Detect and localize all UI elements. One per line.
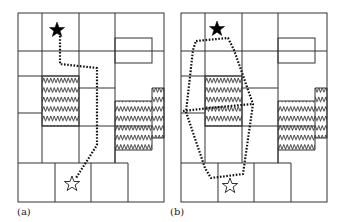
panel-a: (a) (17, 13, 164, 217)
figure-canvas: (a) (b) (0, 0, 342, 222)
start-star-icon (209, 21, 224, 36)
goal-star-icon (222, 178, 237, 193)
grid-a (18, 13, 164, 202)
panel-label-b: (b) (170, 206, 184, 217)
panel-b: (b) (170, 13, 327, 217)
start-star-icon (49, 22, 64, 37)
panel-label-a: (a) (17, 206, 31, 217)
goal-star-icon (64, 176, 79, 191)
